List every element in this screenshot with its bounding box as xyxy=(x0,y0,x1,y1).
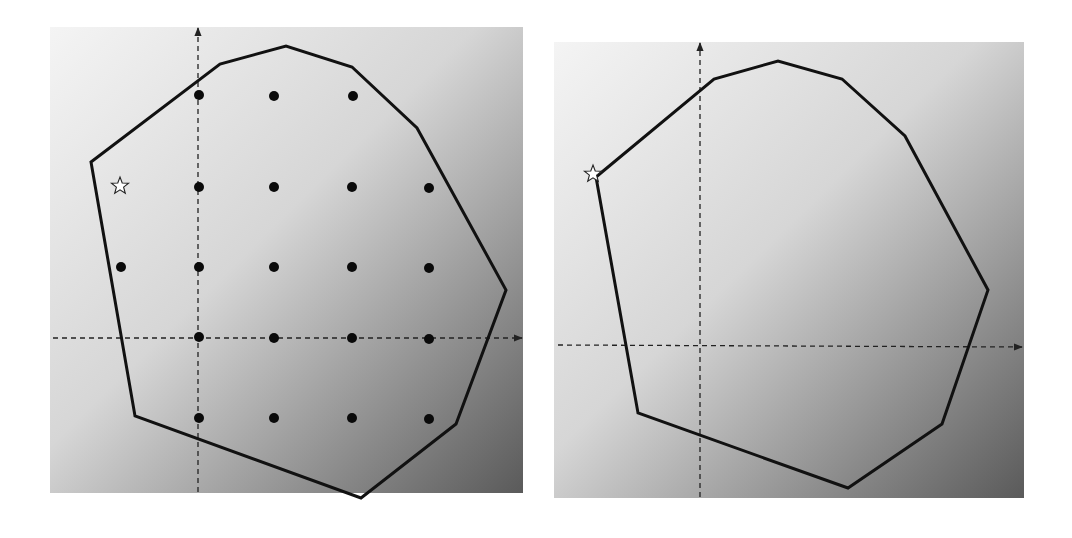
right-background xyxy=(554,42,1024,498)
right-diagram xyxy=(0,0,1072,538)
right-panel xyxy=(0,0,1072,538)
